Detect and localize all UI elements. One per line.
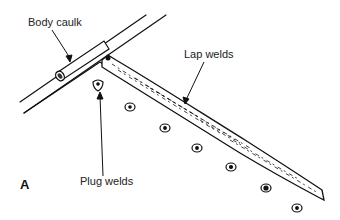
caulk-bead — [54, 41, 109, 82]
diagram-canvas: Body caulk Lap welds Plug welds A — [0, 0, 340, 220]
label-lap-welds: Lap welds — [184, 49, 234, 60]
plug-weld — [261, 184, 271, 192]
plug-weld — [192, 144, 202, 152]
plug-weld — [125, 103, 135, 111]
plug-weld — [292, 204, 302, 212]
arrowhead-icon — [97, 92, 103, 99]
arrowhead-icon — [66, 55, 72, 62]
plug-welds — [93, 80, 302, 212]
label-plug-welds: Plug welds — [80, 176, 133, 187]
figure-label: A — [20, 178, 29, 191]
plug-weld — [226, 163, 236, 171]
plug-weld — [93, 80, 103, 91]
label-body-caulk: Body caulk — [28, 17, 82, 28]
leader-lap-welds — [186, 62, 204, 100]
lap-weld-bead — [102, 55, 324, 200]
plug-weld — [160, 124, 170, 132]
leader-plug-welds — [100, 96, 103, 176]
weld-illustration — [0, 0, 340, 220]
leader-body-caulk — [52, 30, 70, 58]
